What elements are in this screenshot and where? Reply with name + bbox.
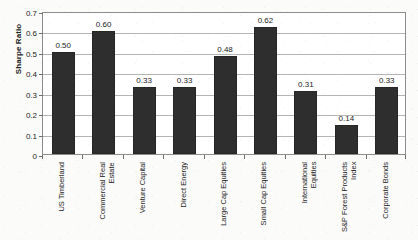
y-axis-tick-label: 0.1: [26, 131, 37, 140]
x-axis-label: Large Cap Equities: [219, 162, 228, 226]
bar-column[interactable]: [254, 11, 277, 154]
bar[interactable]: [254, 27, 277, 154]
x-axis: US TimberlandCommercial RealEstateVentur…: [42, 155, 406, 240]
x-axis-label-line: Small Cap Equities: [259, 162, 268, 225]
x-axis-label-line: Venture Capital: [138, 162, 147, 213]
bar[interactable]: [294, 91, 317, 154]
y-axis-tick-label: 0.6: [26, 29, 37, 38]
bar-data-label: 0.60: [96, 20, 112, 29]
x-axis-tick: [285, 155, 286, 159]
x-axis-tick: [163, 155, 164, 159]
y-axis-tick-label: 0.7: [26, 9, 37, 18]
x-axis-tick: [82, 155, 83, 159]
x-axis-label: InternationalEquities: [300, 162, 318, 203]
bar-data-label: 0.33: [136, 76, 152, 85]
bar[interactable]: [173, 87, 196, 154]
y-axis-tick-label: 0.3: [26, 90, 37, 99]
x-axis-label-line: Estate: [107, 162, 116, 220]
bar-data-label: 0.48: [217, 45, 233, 54]
bar[interactable]: [335, 125, 358, 154]
bar[interactable]: [92, 31, 115, 154]
y-axis-tick-label: 0: [33, 152, 37, 161]
x-axis-tick: [366, 155, 367, 159]
x-axis-label: Corporate Bonds: [381, 162, 390, 219]
x-axis-tick: [123, 155, 124, 159]
x-axis-label: US Timberland: [57, 162, 66, 212]
bar[interactable]: [375, 87, 398, 154]
y-axis-tick-label: 0.2: [26, 111, 37, 120]
bar-series: 0.500.600.330.330.480.620.310.140.33: [43, 13, 405, 154]
bar-column[interactable]: [214, 11, 237, 154]
y-axis-tick-label: 0.5: [26, 49, 37, 58]
y-axis-tick-label: 0.4: [26, 70, 37, 79]
bar-data-label: 0.50: [55, 41, 71, 50]
x-axis-label: Commercial RealEstate: [98, 162, 116, 220]
plot-area: 0.70.60.50.40.30.20.10 0.500.600.330.330…: [42, 12, 406, 155]
x-axis-label-line: Corporate Bonds: [381, 162, 390, 219]
bar-data-label: 0.14: [339, 114, 355, 123]
sharpe-ratio-bar-chart: Sharpe Ratio 0.70.60.50.40.30.20.10 0.50…: [0, 0, 418, 240]
x-axis-label-line: Equities: [309, 162, 318, 203]
bar[interactable]: [214, 56, 237, 154]
bar-data-label: 0.33: [379, 76, 395, 85]
bar[interactable]: [133, 87, 156, 154]
bar-data-label: 0.33: [177, 76, 193, 85]
x-axis-label-line: Large Cap Equities: [219, 162, 228, 226]
x-axis-tick: [244, 155, 245, 159]
x-axis-label-line: International: [300, 162, 309, 203]
x-axis-tick: [204, 155, 205, 159]
x-axis-tick: [325, 155, 326, 159]
bar-column[interactable]: [92, 11, 115, 154]
bar-column[interactable]: [335, 11, 358, 154]
x-axis-label-line: S&P Forest Products: [340, 162, 349, 232]
x-axis-label: Direct Energy: [179, 162, 188, 207]
bar-data-label: 0.31: [298, 80, 314, 89]
x-axis-label: S&P Forest ProductsIndex: [340, 162, 358, 232]
x-axis-tick: [405, 155, 406, 159]
x-axis-label-line: Direct Energy: [179, 162, 188, 207]
bar-data-label: 0.62: [258, 16, 274, 25]
x-axis-label-line: Index: [349, 162, 358, 232]
x-axis-label: Small Cap Equities: [259, 162, 268, 225]
bar[interactable]: [52, 52, 75, 154]
x-axis-label-line: US Timberland: [57, 162, 66, 212]
x-axis-label-line: Commercial Real: [98, 162, 107, 220]
bar-column[interactable]: [52, 11, 75, 154]
x-axis-tick: [42, 155, 43, 159]
x-axis-label: Venture Capital: [138, 162, 147, 213]
